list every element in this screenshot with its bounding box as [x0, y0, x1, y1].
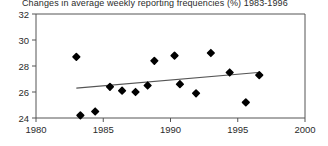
y-axis-tick-label-4: 32 — [18, 9, 29, 20]
data-point-7 — [151, 58, 158, 65]
scatter-plot: 242628303219801985199019952000 — [0, 0, 328, 146]
plot-frame — [36, 14, 305, 118]
x-axis-tick-label-4: 2000 — [294, 124, 315, 135]
data-point-13 — [243, 99, 250, 106]
data-point-5 — [132, 89, 139, 96]
data-point-11 — [208, 50, 215, 57]
y-axis-tick-label-2: 28 — [18, 61, 29, 72]
x-axis-tick-label-3: 1995 — [227, 124, 248, 135]
data-point-9 — [177, 81, 184, 88]
data-point-8 — [171, 52, 178, 59]
x-axis-tick-label-2: 1990 — [160, 124, 181, 135]
data-point-6 — [144, 82, 151, 89]
data-point-0 — [73, 54, 80, 61]
chart-container: Changes in average weekly reporting freq… — [0, 0, 328, 146]
x-axis-tick-label-0: 1980 — [25, 124, 46, 135]
y-axis-tick-label-3: 30 — [18, 35, 29, 46]
data-point-10 — [193, 90, 200, 97]
x-axis-tick-label-1: 1985 — [93, 124, 114, 135]
y-axis-tick-label-1: 26 — [18, 87, 29, 98]
data-point-2 — [92, 108, 99, 115]
data-point-4 — [119, 87, 126, 94]
y-axis-tick-label-0: 24 — [18, 113, 29, 124]
